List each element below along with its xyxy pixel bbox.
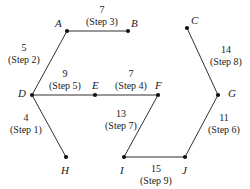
node-label-c: C — [191, 15, 198, 26]
edge-step-f-i: (Step 7) — [97, 120, 145, 132]
edge-step-d-e: (Step 5) — [40, 80, 90, 92]
edge-label-a-b: 7(Step 3) — [74, 4, 130, 27]
edge-label-a-d: 5(Step 2) — [0, 42, 48, 65]
graph-node-f — [156, 93, 160, 97]
graph-node-c — [185, 26, 189, 30]
edge-weight-g-j: 11 — [200, 112, 248, 124]
edge-step-e-f: (Step 4) — [106, 80, 156, 92]
edge-weight-a-d: 5 — [0, 42, 48, 54]
node-label-b: B — [131, 18, 138, 29]
edge-label-f-i: 13(Step 7) — [97, 108, 145, 131]
node-label-j: J — [182, 165, 187, 176]
graph-node-h — [64, 155, 68, 159]
edge-weight-d-e: 9 — [40, 68, 90, 80]
edge-label-e-f: 7(Step 4) — [106, 68, 156, 91]
edge-weight-d-h: 4 — [2, 112, 50, 124]
edge-weight-f-i: 13 — [97, 108, 145, 120]
graph-node-j — [183, 155, 187, 159]
edge-label-i-j: 15(Step 9) — [131, 163, 181, 186]
graph-diagram: ABCDEFGHIJ 7(Step 3)5(Step 2)9(Step 5)7(… — [0, 0, 250, 189]
edge-label-d-h: 4(Step 1) — [2, 112, 50, 135]
edge-step-c-g: (Step 8) — [202, 56, 250, 68]
edge-label-d-e: 9(Step 5) — [40, 68, 90, 91]
edge-step-g-j: (Step 6) — [200, 124, 248, 136]
edge-label-c-g: 14(Step 8) — [202, 44, 250, 67]
edge-layer — [32, 28, 218, 157]
node-label-h: H — [61, 165, 69, 176]
node-label-i: I — [120, 165, 124, 176]
edge-step-a-b: (Step 3) — [74, 16, 130, 28]
graph-canvas — [0, 0, 250, 189]
edge-weight-e-f: 7 — [106, 68, 156, 80]
node-label-g: G — [228, 88, 236, 99]
graph-node-a — [65, 29, 69, 33]
edge-weight-i-j: 15 — [131, 163, 181, 175]
edge-weight-c-g: 14 — [202, 44, 250, 56]
graph-node-d — [30, 93, 34, 97]
edge-step-i-j: (Step 9) — [131, 175, 181, 187]
edge-label-g-j: 11(Step 6) — [200, 112, 248, 135]
node-label-e: E — [92, 80, 99, 91]
graph-node-e — [93, 93, 97, 97]
node-label-d: D — [18, 88, 26, 99]
edge-weight-a-b: 7 — [74, 4, 130, 16]
node-label-f: F — [155, 80, 162, 91]
edge-step-a-d: (Step 2) — [0, 54, 48, 66]
graph-node-i — [122, 155, 126, 159]
graph-node-b — [126, 29, 130, 33]
node-label-a: A — [55, 18, 62, 29]
graph-node-g — [216, 93, 220, 97]
edge-step-d-h: (Step 1) — [2, 124, 50, 136]
